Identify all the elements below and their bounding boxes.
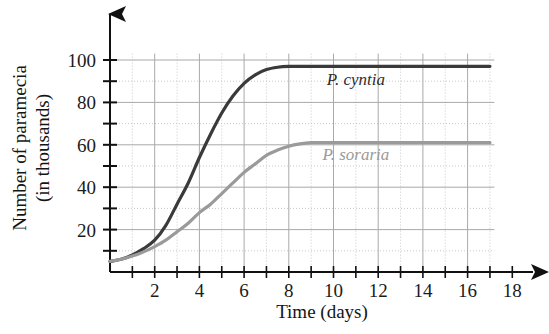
x-tick-label: 8	[284, 280, 294, 301]
x-tick-label: 2	[150, 280, 160, 301]
x-tick-label: 18	[503, 280, 522, 301]
y-axis-title-line1: Number of paramecia	[9, 65, 30, 231]
series-line-p-cyntia	[110, 66, 490, 261]
x-tick-label: 14	[413, 280, 433, 301]
x-axis-tick-labels: 24681012141618	[150, 280, 522, 301]
y-axis-title-line2: (in thousands)	[32, 94, 54, 202]
x-axis-title: Time (days)	[276, 301, 368, 323]
y-axis-tick-labels: 20406080100	[68, 50, 97, 241]
series-line-p-soraria	[110, 143, 490, 262]
x-tick-label: 6	[239, 280, 249, 301]
x-tick-label: 4	[195, 280, 205, 301]
y-tick-label: 40	[77, 177, 96, 198]
y-tick-label: 20	[77, 220, 96, 241]
chart-svg: 24681012141618 20406080100 P. cyntia P. …	[0, 0, 549, 334]
series-label-p-cyntia: P. cyntia	[326, 70, 385, 89]
axis-tick-marks	[103, 60, 512, 278]
x-tick-label: 10	[324, 280, 343, 301]
x-tick-label: 16	[458, 280, 477, 301]
y-tick-label: 100	[68, 50, 97, 71]
series-label-p-soraria: P. soraria	[321, 145, 389, 164]
y-tick-label: 80	[77, 92, 96, 113]
x-tick-label: 12	[369, 280, 388, 301]
y-tick-label: 60	[77, 135, 96, 156]
paramecia-growth-chart: 24681012141618 20406080100 P. cyntia P. …	[0, 0, 549, 334]
